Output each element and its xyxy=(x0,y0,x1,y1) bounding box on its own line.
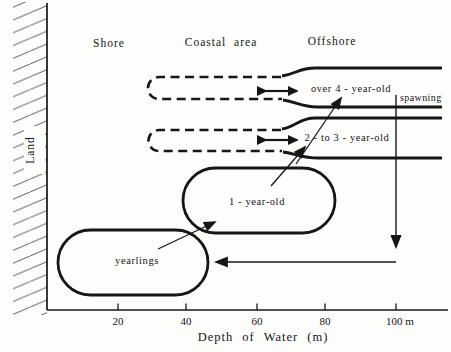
tube-over4-dashed xyxy=(148,77,282,99)
tube-over4-top-line xyxy=(282,68,442,76)
migration-diagram: Land Shore Coastal area Offshore over 4 … xyxy=(0,0,451,352)
label-land: Land xyxy=(24,136,36,164)
tick-label-80: 80 xyxy=(320,315,332,327)
tick-label-40: 40 xyxy=(181,315,193,327)
label-over-4-year-old: over 4 - year-old xyxy=(311,83,391,94)
migration-diagram-svg: Land Shore Coastal area Offshore over 4 … xyxy=(0,0,451,352)
tick-label-20: 20 xyxy=(113,315,125,327)
label-spawning: spawning xyxy=(400,92,442,103)
label-offshore: Offshore xyxy=(308,35,357,47)
tick-label-100m: 100 m xyxy=(386,315,414,327)
label-yearlings: yearlings xyxy=(115,255,159,266)
tube-2to3-dashed xyxy=(149,130,283,151)
tick-label-60: 60 xyxy=(252,315,264,327)
arrow-yearlings-to-1yo xyxy=(158,222,215,249)
depth-axis-title: Depth of Water (m) xyxy=(198,330,329,344)
label-1-year-old: 1 - year-old xyxy=(229,196,285,207)
label-coastal-area: Coastal area xyxy=(185,36,258,48)
tube-2to3-bottom-line xyxy=(283,152,442,158)
tube-2to3-top-line xyxy=(282,118,442,129)
label-shore: Shore xyxy=(93,37,125,49)
